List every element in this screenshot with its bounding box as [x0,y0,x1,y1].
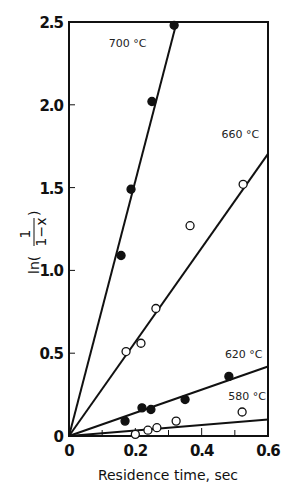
open-marker [239,180,247,188]
x-tick-label: 0.6 [256,442,280,460]
fit-line [69,22,177,436]
ylabel-denominator: 1−x [33,218,49,247]
y-tick-label: 1.0 [39,262,63,280]
open-marker [153,424,161,432]
open-marker [122,348,130,356]
open-marker [137,339,145,347]
plot-frame [69,22,268,436]
x-tick-label: 0 [64,442,74,460]
x-tick-label: 0.2 [124,442,148,460]
filled-marker [147,406,155,414]
filled-marker [225,372,233,380]
filled-marker [138,404,146,412]
x-axis-title: Residence time, sec [98,467,238,483]
open-marker [152,304,160,312]
plot-border [69,22,268,436]
y-tick-label: 2.5 [39,14,63,32]
y-tick-label: 0 [54,428,64,446]
open-marker [131,430,139,438]
filled-marker [127,185,135,193]
ylabel-close-paren: ) [26,211,42,216]
temperature-label: 580 °C [228,390,266,403]
open-marker [172,417,180,425]
filled-marker [181,396,189,404]
filled-marker [170,21,178,29]
ylabel-numerator: 1 [17,230,33,239]
temperature-label: 620 °C [225,348,263,361]
x-tick-label: 0.4 [190,442,214,460]
ylabel-ln: ln( [26,256,42,274]
y-tick-label: 1.5 [39,180,63,198]
open-marker [144,426,152,434]
data-points [117,21,247,438]
fit-lines [69,22,268,436]
filled-marker [121,417,129,425]
temperature-label: 700 °C [109,37,147,50]
temperature-label: 660 °C [222,128,260,141]
filled-marker [117,251,125,259]
open-marker [238,408,246,416]
y-tick-label: 0.5 [39,345,63,363]
rate-plot: 00.20.40.600.51.01.52.02.5 700 °C660 °C6… [0,0,284,488]
open-marker [186,222,194,230]
y-tick-label: 2.0 [39,97,63,115]
filled-marker [148,97,156,105]
